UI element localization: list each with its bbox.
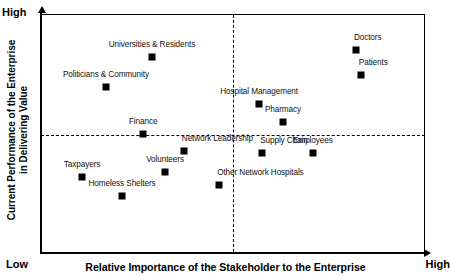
data-point-label: Employees	[293, 136, 333, 146]
data-point-label: Finance	[129, 117, 157, 127]
x-axis-low-label: Low	[6, 258, 28, 270]
data-point-marker[interactable]	[309, 149, 316, 156]
x-axis-title: Relative Importance of the Stakeholder t…	[0, 261, 451, 273]
data-point-marker[interactable]	[102, 83, 109, 90]
x-axis-high-label: High	[426, 258, 450, 270]
data-point-marker[interactable]	[256, 100, 263, 107]
data-point-label: Hospital Management	[220, 87, 298, 97]
data-point-label: Network Leadership	[182, 134, 253, 144]
data-point-label: Pharmacy	[265, 105, 301, 115]
data-point-label: Taxpayers	[64, 160, 100, 170]
data-point-marker[interactable]	[119, 192, 126, 199]
y-axis-title-line1: Current Performance of the Enterprise	[6, 40, 17, 220]
data-point-label: Homeless Shelters	[89, 179, 156, 189]
data-point-label: Volunteers	[146, 155, 184, 165]
stakeholder-importance-performance-matrix: High Universities & ResidentsPoliticians…	[0, 0, 451, 276]
data-point-marker[interactable]	[140, 130, 147, 137]
data-point-marker[interactable]	[259, 149, 266, 156]
data-point-marker[interactable]	[148, 54, 155, 61]
data-point-label: Universities & Residents	[109, 40, 195, 50]
data-point-marker[interactable]	[352, 46, 359, 53]
data-point-marker[interactable]	[216, 181, 223, 188]
data-point-marker[interactable]	[79, 173, 86, 180]
y-axis-title-line2: in Delivering Value	[18, 86, 29, 174]
data-point-marker[interactable]	[279, 118, 286, 125]
data-point-marker[interactable]	[162, 168, 169, 175]
x-axis-arrow-icon	[424, 249, 431, 257]
data-point-label: Doctors	[354, 33, 382, 43]
data-point-label: Other Network Hospitals	[217, 168, 303, 178]
data-point-marker[interactable]	[357, 71, 364, 78]
data-point-label: Patients	[359, 58, 388, 68]
y-axis-arrow-icon	[38, 6, 46, 13]
y-axis-title: Current Performance of the Enterprise in…	[6, 15, 30, 245]
data-point-label: Politicians & Community	[63, 70, 149, 80]
